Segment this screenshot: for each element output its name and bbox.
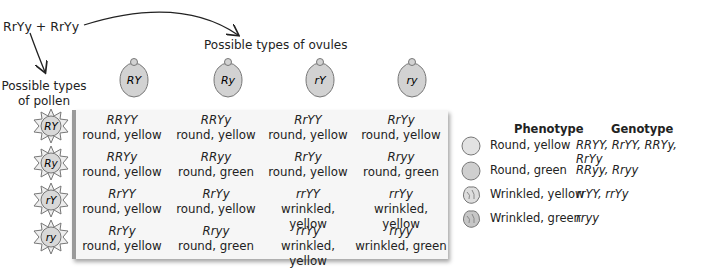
grid-cell: rryywrinkled, green [355, 224, 447, 254]
grid-cell: RRyyround, green [170, 150, 262, 180]
legend-row: Wrinkled, yellow rrYY, rrYy [460, 184, 700, 204]
genotype-header: Genotype [611, 122, 673, 136]
pollen-icon: ry [33, 219, 69, 255]
ovule-icon: RY [117, 56, 151, 98]
grid-cell: Rryyround, green [170, 224, 262, 254]
cross-label: RrYy + RrYy [3, 19, 79, 34]
grid-cell: RrYyround, yellow [262, 150, 354, 180]
pollen-icon: RY [33, 108, 69, 144]
grid-cell: RrYYround, yellow [262, 113, 354, 143]
svg-text:RY: RY [44, 120, 59, 132]
svg-text:ry: ry [46, 231, 57, 243]
arrow-to-pollen [30, 33, 45, 72]
grid-cell: RrYyround, yellow [76, 224, 168, 254]
wrinkled-seed-icon [460, 184, 482, 206]
svg-text:RY: RY [127, 74, 143, 87]
grid-cell: Rryyround, green [355, 150, 447, 180]
legend-row: Wrinkled, green rryy [460, 208, 700, 228]
round-seed-icon [460, 135, 482, 157]
svg-text:Ry: Ry [44, 157, 58, 169]
ovule-icon: ry [395, 56, 429, 98]
pollen-icon: Ry [33, 145, 69, 181]
ovule-icon: Ry [211, 56, 245, 98]
grid-cell: RrYYround, yellow [76, 187, 168, 217]
grid-cell: RrYyround, yellow [355, 113, 447, 143]
svg-text:ry: ry [406, 74, 418, 87]
grid-cell: RrYyround, yellow [170, 187, 262, 217]
ovule-icon: rY [303, 56, 337, 98]
legend-row: Round, yellow RRYY, RrYY, RRYy, RrYy [460, 135, 700, 155]
grid-cell: RRYYround, yellow [76, 113, 168, 143]
arrow-to-ovules [84, 12, 238, 35]
svg-text:rY: rY [314, 74, 327, 87]
pollen-icon: rY [33, 182, 69, 218]
ovule-types-label: Possible types of ovules [204, 38, 347, 52]
round-seed-icon [460, 160, 482, 182]
grid-cell: RRYyround, yellow [76, 150, 168, 180]
pollen-types-label: Possible types of pollen [0, 79, 88, 109]
svg-text:rY: rY [46, 194, 58, 206]
svg-text:Ry: Ry [221, 74, 236, 87]
punnett-square: RRYYround, yellow RRYyround, yellow RrYY… [72, 110, 448, 259]
grid-cell: RRYyround, yellow [170, 113, 262, 143]
legend-row: Round, green RRyy, Rryy [460, 160, 700, 180]
phenotype-header: Phenotype [514, 122, 584, 136]
wrinkled-seed-icon [460, 208, 482, 230]
grid-cell: rrYywrinkled, yellow [262, 224, 354, 269]
